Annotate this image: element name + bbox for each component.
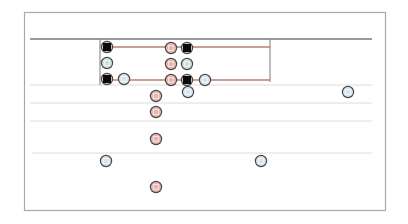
node-red-icon[interactable] (165, 42, 176, 53)
node-red-icon[interactable] (150, 133, 161, 144)
node-red-icon[interactable] (165, 58, 176, 69)
node-blue-icon[interactable] (255, 155, 266, 166)
node-red-icon[interactable] (165, 74, 176, 85)
node-blue-icon[interactable] (118, 73, 129, 84)
diagram-canvas (0, 0, 408, 224)
node-red-icon[interactable] (150, 106, 161, 117)
diagram-svg (0, 0, 408, 224)
node-red-icon[interactable] (150, 181, 161, 192)
node-red-icon[interactable] (150, 90, 161, 101)
diagram-frame (25, 13, 386, 211)
node-black-icon[interactable] (181, 74, 192, 85)
node-blue-icon[interactable] (199, 74, 210, 85)
node-blue-icon[interactable] (342, 86, 353, 97)
node-black-icon[interactable] (101, 73, 112, 84)
node-green-icon[interactable] (101, 57, 112, 68)
node-blue-icon[interactable] (100, 155, 111, 166)
node-black-icon[interactable] (101, 41, 112, 52)
node-green-icon[interactable] (181, 58, 192, 69)
node-black-icon[interactable] (181, 42, 192, 53)
node-blue-icon[interactable] (182, 86, 193, 97)
